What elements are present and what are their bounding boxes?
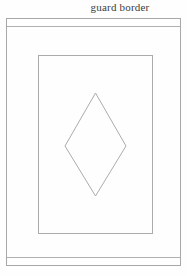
figure-canvas: guard border [0,0,187,276]
diamond-medallion [0,0,187,276]
diamond-outline [65,93,126,196]
